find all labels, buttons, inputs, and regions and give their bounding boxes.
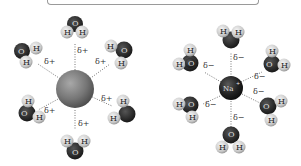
- svg-text:O: O: [72, 19, 79, 28]
- delta-label: δ+: [44, 106, 56, 115]
- delta-label: δ+: [101, 94, 113, 103]
- left-cluster: O H H δ+ O H H δ+ O H H δ+: [14, 16, 136, 160]
- svg-text:H: H: [235, 28, 242, 37]
- delta-label: δ−: [233, 113, 245, 122]
- svg-text:H: H: [107, 42, 114, 51]
- svg-text:O: O: [18, 47, 25, 56]
- anion-sphere: [56, 70, 94, 108]
- water-molecule-upper-right: H O H δ−: [254, 45, 291, 82]
- svg-text:H: H: [176, 100, 183, 109]
- svg-text:O: O: [188, 100, 195, 109]
- water-molecule-upper-left: O H H δ+: [14, 42, 56, 69]
- delta-label: δ−: [254, 72, 266, 81]
- svg-text:O: O: [188, 59, 195, 68]
- water-molecule-upper-right: O H H δ+: [95, 40, 133, 70]
- svg-text:H: H: [236, 143, 243, 152]
- delta-label: δ−: [233, 53, 245, 62]
- svg-text:H: H: [64, 28, 71, 37]
- svg-text:H: H: [36, 113, 43, 122]
- water-molecule-lower-left: O H H δ+: [19, 95, 56, 124]
- svg-text:H: H: [118, 59, 125, 68]
- delta-label: δ−: [203, 61, 215, 70]
- svg-text:H: H: [281, 61, 288, 70]
- svg-text:H: H: [120, 97, 127, 106]
- svg-text:H: H: [219, 143, 226, 152]
- svg-text:H: H: [81, 137, 88, 146]
- svg-text:H: H: [110, 114, 117, 123]
- svg-text:O: O: [121, 46, 128, 55]
- svg-text:H: H: [268, 116, 275, 125]
- right-cluster: Na + H H δ− H H O δ− H O: [173, 25, 291, 154]
- svg-text:H: H: [79, 28, 86, 37]
- svg-text:O: O: [266, 60, 273, 69]
- svg-text:H: H: [25, 97, 32, 106]
- delta-label: δ+: [77, 46, 89, 55]
- svg-text:H: H: [187, 46, 194, 55]
- delta-label: δ−: [205, 100, 217, 109]
- svg-text:H: H: [64, 137, 71, 146]
- svg-text:H: H: [33, 44, 40, 53]
- delta-label: δ+: [78, 119, 90, 128]
- svg-text:O: O: [21, 109, 28, 118]
- delta-label: δ−: [253, 87, 265, 96]
- svg-text:H: H: [176, 60, 183, 69]
- svg-text:O: O: [228, 130, 235, 139]
- sodium-charge-label: +: [236, 80, 240, 86]
- hydration-diagram: O H H δ+ O H H δ+ O H H δ+: [0, 0, 301, 166]
- svg-text:H: H: [269, 47, 276, 56]
- water-molecule-lower-right: H H δ+: [101, 94, 136, 125]
- delta-label: δ+: [95, 57, 107, 66]
- svg-text:H: H: [220, 27, 227, 36]
- sodium-ion-label: Na: [223, 85, 233, 93]
- water-molecule-lower-left: H O H δ−: [173, 97, 217, 124]
- svg-text:O: O: [263, 102, 270, 111]
- svg-text:H: H: [189, 113, 196, 122]
- svg-text:H: H: [278, 97, 285, 106]
- water-molecule-upper-left: H H O δ−: [173, 44, 215, 72]
- delta-label: δ+: [44, 57, 56, 66]
- svg-text:O: O: [72, 148, 79, 157]
- svg-text:H: H: [23, 58, 30, 67]
- water-molecule-lower-right: O H H δ−: [253, 87, 288, 127]
